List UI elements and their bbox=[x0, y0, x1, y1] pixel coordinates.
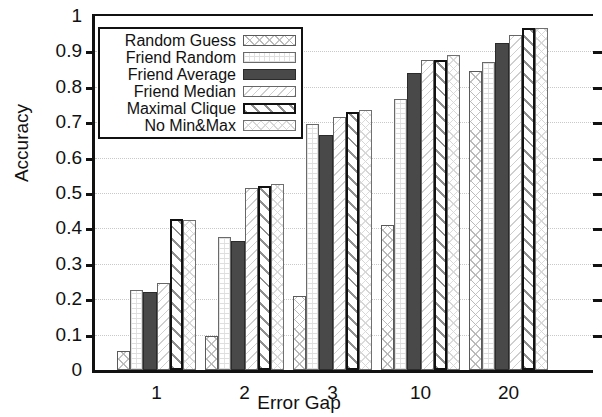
y-axis-tick bbox=[86, 228, 95, 231]
bar bbox=[407, 73, 420, 370]
y-axis-tick bbox=[86, 264, 95, 267]
bar bbox=[183, 220, 196, 370]
bar-group bbox=[381, 16, 460, 370]
y-axis-tick bbox=[86, 122, 95, 125]
bar bbox=[469, 71, 482, 370]
bar bbox=[509, 35, 522, 370]
y-axis-tick bbox=[593, 264, 602, 267]
y-axis-tick-label: 0.1 bbox=[56, 324, 82, 346]
bar bbox=[170, 219, 183, 371]
y-axis-tick bbox=[593, 299, 602, 302]
y-axis-tick bbox=[593, 51, 602, 54]
bar bbox=[535, 28, 548, 370]
bar bbox=[421, 60, 434, 370]
y-axis-tick-label: 0.9 bbox=[56, 40, 82, 62]
x-axis-tick-label: 20 bbox=[498, 382, 519, 404]
bar bbox=[495, 43, 508, 370]
y-axis-tick bbox=[593, 228, 602, 231]
bar-group bbox=[469, 16, 548, 370]
y-axis-tick bbox=[593, 193, 602, 196]
bar bbox=[482, 62, 495, 370]
legend-item-label: Maximal Clique bbox=[127, 100, 236, 117]
y-axis-tick-label: 0.3 bbox=[56, 253, 82, 275]
x-axis-tick-label: 3 bbox=[327, 382, 338, 404]
legend-item: Maximal Clique bbox=[104, 100, 296, 117]
legend-item-label: Friend Average bbox=[128, 66, 236, 83]
y-axis-tick bbox=[593, 122, 602, 125]
legend-item: Random Guess bbox=[104, 32, 296, 49]
legend-item: No Min&Max bbox=[104, 117, 296, 134]
x-axis-tick-label: 2 bbox=[239, 382, 250, 404]
legend-swatch bbox=[243, 35, 296, 46]
y-axis-tick-label: 0 bbox=[71, 359, 82, 381]
y-axis-tick-label: 0.4 bbox=[56, 217, 82, 239]
bar bbox=[319, 135, 332, 370]
legend-swatch bbox=[243, 69, 296, 80]
legend-item-label: No Min&Max bbox=[144, 117, 236, 134]
legend-item: Friend Random bbox=[104, 49, 296, 66]
legend-item-label: Friend Random bbox=[126, 49, 236, 66]
bar bbox=[231, 241, 244, 370]
legend-item: Friend Median bbox=[104, 83, 296, 100]
y-axis-tick bbox=[86, 51, 95, 54]
y-axis-tick bbox=[593, 335, 602, 338]
y-axis-tick bbox=[86, 299, 95, 302]
y-axis-tick bbox=[86, 158, 95, 161]
bar bbox=[359, 110, 372, 370]
legend-item-label: Random Guess bbox=[125, 32, 236, 49]
y-axis-tick bbox=[86, 335, 95, 338]
bar bbox=[205, 336, 218, 370]
bar bbox=[293, 296, 306, 370]
legend-swatch bbox=[243, 86, 296, 97]
y-axis-tick-label: 1 bbox=[71, 5, 82, 27]
bar-group bbox=[293, 16, 372, 370]
bar bbox=[157, 283, 170, 370]
bar bbox=[522, 28, 535, 370]
legend-item-label: Friend Median bbox=[134, 83, 236, 100]
y-axis-tick-label: 0.6 bbox=[56, 147, 82, 169]
y-axis-tick-label: 0.2 bbox=[56, 288, 82, 310]
chart-legend: Random GuessFriend RandomFriend AverageF… bbox=[98, 27, 303, 139]
y-axis-tick-label: 0.5 bbox=[56, 182, 82, 204]
bar bbox=[143, 292, 156, 370]
y-axis-tick-label: 0.7 bbox=[56, 111, 82, 133]
legend-swatch bbox=[243, 120, 296, 131]
bar bbox=[306, 124, 319, 370]
legend-item: Friend Average bbox=[104, 66, 296, 83]
bar bbox=[271, 184, 284, 370]
legend-swatch bbox=[243, 103, 296, 114]
bar bbox=[258, 186, 271, 370]
y-axis-tick-label: 0.8 bbox=[56, 76, 82, 98]
bar bbox=[218, 237, 231, 370]
bar bbox=[346, 112, 359, 370]
y-axis-tick bbox=[86, 87, 95, 90]
y-axis-tick bbox=[86, 193, 95, 196]
x-axis-tick-label: 10 bbox=[410, 382, 431, 404]
bar bbox=[245, 188, 258, 370]
y-axis-tick bbox=[593, 158, 602, 161]
y-axis-tick bbox=[593, 87, 602, 90]
bar bbox=[381, 225, 394, 370]
bar bbox=[434, 60, 447, 370]
y-axis-label: Accuracy bbox=[11, 83, 33, 203]
bar bbox=[394, 99, 407, 370]
x-axis-tick-label: 1 bbox=[151, 382, 162, 404]
legend-swatch bbox=[243, 52, 296, 63]
bar bbox=[130, 290, 143, 370]
bar bbox=[333, 117, 346, 370]
bar bbox=[447, 55, 460, 370]
bar bbox=[117, 351, 130, 370]
